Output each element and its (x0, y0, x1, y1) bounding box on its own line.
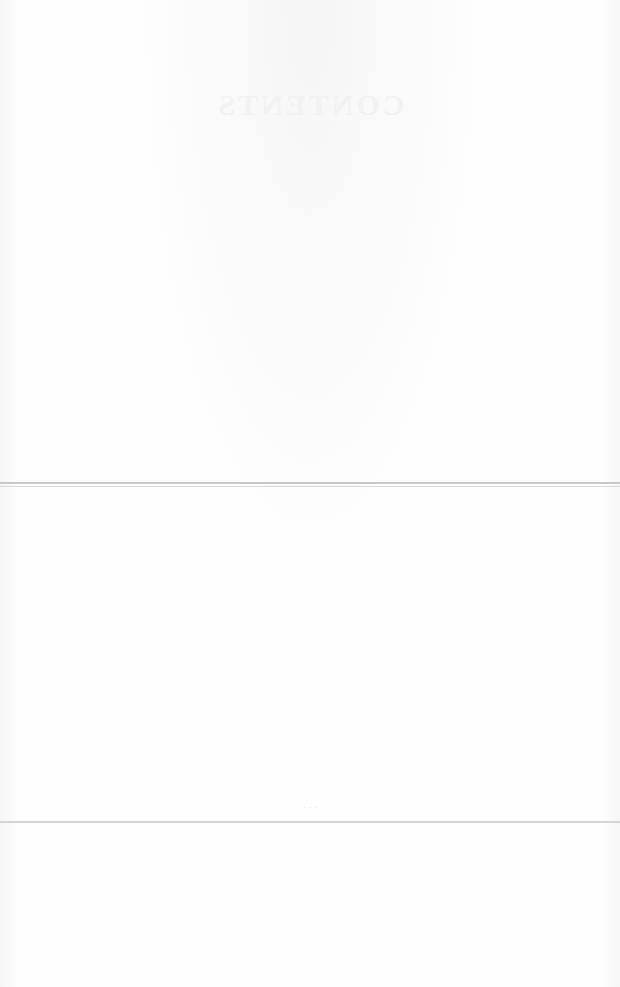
bleed-through-title: CONTENTS (0, 88, 620, 122)
scanned-page: CONTENTS · · · (0, 0, 620, 987)
bleed-through-text-upper (90, 200, 530, 450)
fold-line-single-rule (0, 821, 620, 823)
bleed-through-text-lower (90, 500, 530, 760)
fold-line-double-rule (0, 482, 620, 487)
page-mark: · · · (0, 802, 620, 812)
